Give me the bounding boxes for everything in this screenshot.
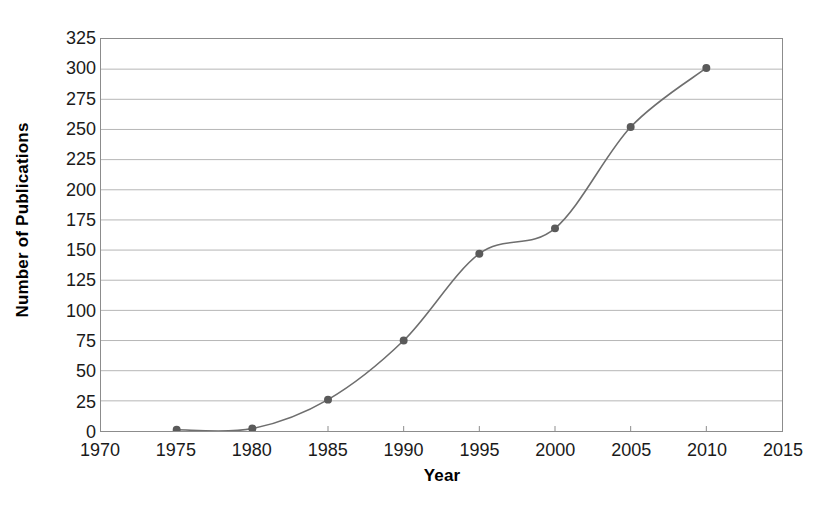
x-axis-tick-label: 1990: [364, 441, 444, 459]
y-axis-tick-label: 25: [44, 393, 96, 411]
chart-figure: Number of Publications 02550751001251501…: [0, 0, 824, 506]
y-axis-tick-label: 75: [44, 332, 96, 350]
data-point: [627, 123, 635, 131]
data-series-line: [177, 68, 707, 431]
x-axis-title: Year: [100, 466, 784, 486]
y-axis-tick-label: 250: [44, 120, 96, 138]
x-axis-tick-label: 2010: [667, 441, 747, 459]
y-axis-tick-label: 225: [44, 150, 96, 168]
y-axis-tick-label: 0: [44, 423, 96, 441]
data-point: [702, 64, 710, 72]
data-point: [475, 250, 483, 258]
y-axis-tick-label: 50: [44, 362, 96, 380]
y-axis-title-text: Number of Publications: [13, 122, 33, 317]
plot-svg: [101, 39, 782, 431]
y-axis-tick-label: 125: [44, 271, 96, 289]
x-axis-tick-label: 2015: [743, 441, 823, 459]
data-point: [173, 426, 181, 431]
x-axis-tick-label: 1980: [212, 441, 292, 459]
x-axis-tick-label: 2005: [591, 441, 671, 459]
data-point: [400, 337, 408, 345]
x-axis-tick-label: 1970: [60, 441, 140, 459]
y-axis-tick-label: 200: [44, 181, 96, 199]
y-axis-tick-label: 150: [44, 241, 96, 259]
y-axis-tick-label: 275: [44, 90, 96, 108]
data-point: [324, 396, 332, 404]
y-axis-tick-label: 100: [44, 302, 96, 320]
data-point: [551, 224, 559, 232]
y-axis-tick-label: 300: [44, 59, 96, 77]
x-axis-tick-label: 1995: [439, 441, 519, 459]
y-axis-tick-labels: 0255075100125150175200225250275300325: [40, 0, 96, 506]
data-point: [248, 425, 256, 431]
y-axis-tick-label: 325: [44, 29, 96, 47]
x-axis-tick-label: 2000: [515, 441, 595, 459]
x-axis-tick-label: 1985: [288, 441, 368, 459]
gridlines: [101, 69, 782, 401]
plot-area: [100, 38, 783, 432]
x-axis-tick-label: 1975: [136, 441, 216, 459]
y-axis-tick-label: 175: [44, 211, 96, 229]
data-series-markers: [173, 64, 711, 431]
